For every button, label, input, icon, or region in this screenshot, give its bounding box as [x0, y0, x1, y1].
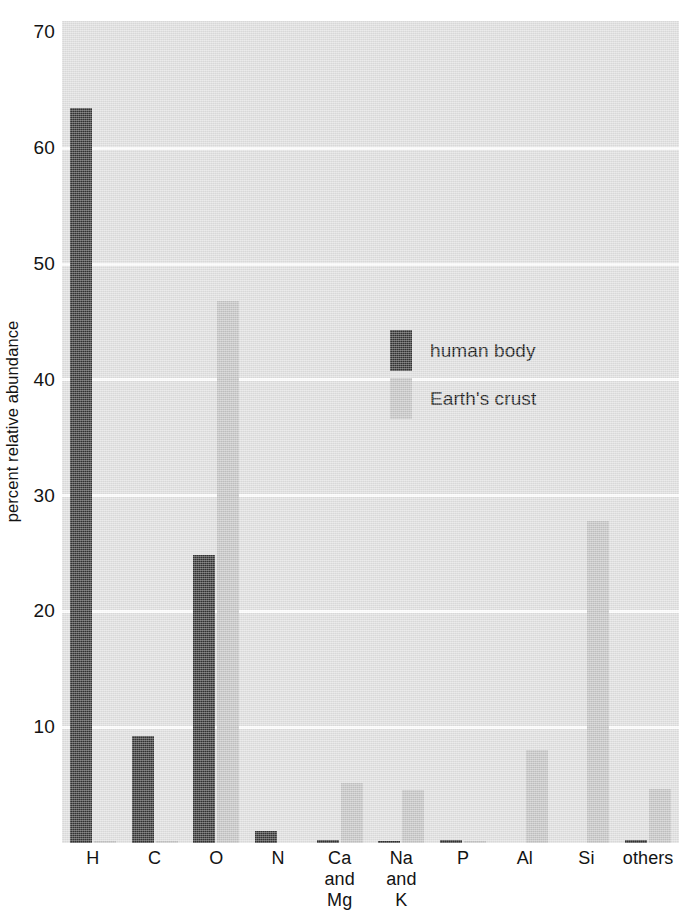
x-tick-label: N: [271, 848, 284, 869]
bar-human-body: [255, 831, 277, 843]
x-tick-line: O: [209, 848, 223, 869]
x-tick-line: P: [457, 848, 469, 869]
x-tick-label: O: [209, 848, 223, 869]
x-axis-tick-labels: HCONCaandMgNaandKPAlSiothers: [62, 848, 679, 912]
bar-group: [247, 21, 309, 843]
bar-group: [371, 21, 433, 843]
x-tick-line: Ca: [324, 848, 354, 869]
y-axis-tick-labels: 10203040506070: [0, 0, 55, 912]
x-tick-label: C: [148, 848, 161, 869]
bar-chart-figure: percent relative abundance 1020304050607…: [0, 0, 679, 912]
x-tick-line: and: [324, 869, 354, 890]
y-tick-label: 60: [3, 137, 55, 159]
y-tick-label: 20: [3, 600, 55, 622]
legend-label: Earth's crust: [430, 388, 536, 410]
bar-human-body: [378, 841, 400, 843]
bar-earths-crust: [156, 841, 178, 843]
bar-human-body: [70, 108, 92, 843]
y-tick-label: 70: [3, 21, 55, 43]
bar-group: [185, 21, 247, 843]
y-tick-label: 50: [3, 253, 55, 275]
bar-human-body: [132, 736, 154, 843]
y-tick-label: 40: [3, 369, 55, 391]
x-tick-label: Al: [517, 848, 533, 869]
bar-earths-crust: [217, 301, 239, 843]
x-tick-line: others: [623, 848, 674, 869]
bar-group: [62, 21, 124, 843]
bar-human-body: [440, 840, 462, 843]
bar-earths-crust: [341, 783, 363, 843]
legend-label: human body: [430, 340, 536, 362]
x-tick-label: CaandMg: [324, 848, 354, 911]
x-tick-line: Si: [578, 848, 594, 869]
bar-earths-crust: [526, 750, 548, 843]
x-tick-line: K: [386, 890, 416, 911]
bar-group: [432, 21, 494, 843]
x-tick-line: H: [86, 848, 99, 869]
x-tick-line: C: [148, 848, 161, 869]
bar-earths-crust: [94, 841, 116, 843]
bar-earths-crust: [402, 790, 424, 843]
bar-group: [124, 21, 186, 843]
bar-group: [494, 21, 556, 843]
x-tick-label: P: [457, 848, 469, 869]
x-tick-label: others: [623, 848, 674, 869]
bar-earths-crust: [649, 789, 671, 843]
legend-swatch: [390, 330, 412, 371]
legend-swatch: [390, 378, 412, 419]
x-tick-line: Na: [386, 848, 416, 869]
x-tick-line: Al: [517, 848, 533, 869]
bar-group: [617, 21, 679, 843]
x-tick-line: Mg: [324, 890, 354, 911]
x-tick-line: and: [386, 869, 416, 890]
x-tick-label: H: [86, 848, 99, 869]
x-tick-label: NaandK: [386, 848, 416, 911]
y-tick-label: 10: [3, 716, 55, 738]
x-tick-line: N: [271, 848, 284, 869]
bar-group: [556, 21, 618, 843]
bar-human-body: [193, 555, 215, 843]
bar-group: [309, 21, 371, 843]
bar-earths-crust: [587, 521, 609, 843]
x-tick-label: Si: [578, 848, 594, 869]
bar-human-body: [625, 840, 647, 843]
bar-human-body: [317, 840, 339, 843]
plot-area: human bodyEarth's crust: [62, 21, 679, 843]
y-tick-label: 30: [3, 485, 55, 507]
bar-earths-crust: [464, 841, 486, 843]
